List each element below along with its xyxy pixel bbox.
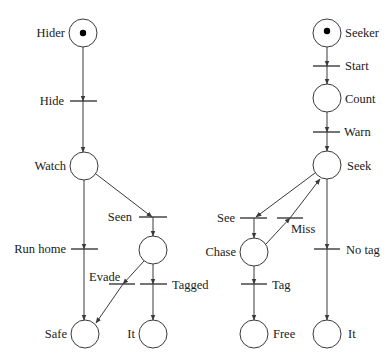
place-count xyxy=(313,84,341,112)
label-miss: Miss xyxy=(291,222,315,236)
place-seek xyxy=(313,151,341,179)
arc-seek-see xyxy=(256,173,315,217)
place-chase xyxy=(240,238,268,266)
label-hider: Hider xyxy=(0,26,65,40)
label-see: See xyxy=(190,211,235,225)
label-free: Free xyxy=(273,327,295,341)
token-hider xyxy=(80,30,86,36)
label-run-home: Run home xyxy=(0,242,66,256)
arc-evade-safe xyxy=(96,284,123,323)
label-seen: Seen xyxy=(80,210,132,224)
label-watch: Watch xyxy=(0,159,66,173)
arc-place-evade xyxy=(123,261,144,284)
label-start: Start xyxy=(345,59,369,73)
petri-net-diagram: Hider Watch Safe It Seeker Count Seek Ch… xyxy=(0,0,392,363)
arc-miss-seek xyxy=(290,179,320,218)
place-safe xyxy=(71,320,99,348)
label-hide: Hide xyxy=(0,94,64,108)
label-seek: Seek xyxy=(347,159,371,173)
label-no-tag: No tag xyxy=(346,243,380,257)
place-free xyxy=(240,320,268,348)
label-seeker: Seeker xyxy=(345,26,379,40)
diagram-graphics xyxy=(0,0,392,363)
place-seen xyxy=(139,236,167,264)
label-tag: Tag xyxy=(272,278,291,292)
label-it-left: It xyxy=(100,327,135,341)
label-tagged: Tagged xyxy=(172,278,209,292)
token-seeker xyxy=(324,28,330,34)
place-it-left xyxy=(139,320,167,348)
place-watch xyxy=(70,152,98,180)
label-it-right: It xyxy=(348,327,356,341)
arc-chase-miss xyxy=(266,218,290,244)
label-count: Count xyxy=(345,92,376,106)
place-it-right xyxy=(313,320,341,348)
label-chase: Chase xyxy=(190,245,236,259)
label-evade: Evade xyxy=(89,270,120,284)
label-warn: Warn xyxy=(344,125,371,139)
label-safe: Safe xyxy=(0,327,67,341)
